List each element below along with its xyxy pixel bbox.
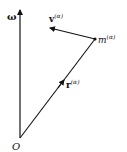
position-vector-midarrow <box>58 80 64 88</box>
velocity-vector <box>50 28 95 39</box>
position-vector <box>20 39 95 138</box>
vector-diagram: ω r(α) m(α) v(α) O <box>0 0 127 152</box>
velocity-label: v(α) <box>48 12 64 24</box>
position-label: r(α) <box>66 78 80 90</box>
omega-label: ω <box>7 11 17 22</box>
mass-label: m(α) <box>98 33 116 45</box>
origin-label: O <box>12 141 20 152</box>
